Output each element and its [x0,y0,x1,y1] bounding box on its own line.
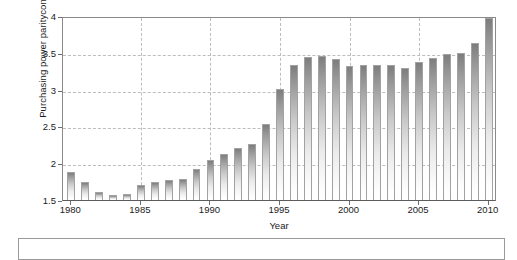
plot-area [62,17,496,201]
y-axis-tick-mark [58,201,62,202]
bar [193,169,201,200]
caption-box [18,238,505,260]
y-axis-tick-label: 4 [16,12,56,22]
bar [207,160,215,200]
gridline-horizontal [63,55,495,56]
bar [151,182,159,200]
bar [332,59,340,200]
bar [415,62,423,200]
x-axis-tick-label: 2005 [396,205,440,215]
bar [346,66,354,200]
bar [276,89,284,200]
bar [443,54,451,200]
x-axis-tick-label: 1980 [48,205,92,215]
bar [471,43,479,200]
x-axis-tick-label: 2010 [466,205,510,215]
gridline-vertical [141,18,142,200]
x-axis-title: Year [62,220,496,231]
bar [290,65,298,200]
bar [318,56,326,200]
y-axis-tick-label: 2.5 [16,122,56,132]
bar [67,172,75,200]
bar [429,58,437,200]
bar [485,18,493,200]
y-axis-tick-label: 2 [16,159,56,169]
bar [387,65,395,200]
y-axis-tick-label: 3 [16,86,56,96]
bar [248,144,256,200]
x-axis-tick-label: 2000 [327,205,371,215]
bar [373,65,381,200]
bar [360,65,368,200]
plot-inner [63,18,495,200]
x-axis-tick-label: 1985 [118,205,162,215]
bar [220,154,228,200]
bar [137,185,145,200]
y-axis-tick-label: 3.5 [16,49,56,59]
bar [165,180,173,200]
bar [95,192,103,200]
bar [304,57,312,200]
bar [109,195,117,200]
x-axis-tick-label: 1990 [187,205,231,215]
bar [81,182,89,200]
bar [401,68,409,200]
bar [457,53,465,200]
bar [234,148,242,200]
bar [262,124,270,200]
bar [179,179,187,200]
bar [123,194,131,200]
x-axis-tick-label: 1995 [257,205,301,215]
y-axis-title-line1: Purchasing power parity [37,15,49,118]
